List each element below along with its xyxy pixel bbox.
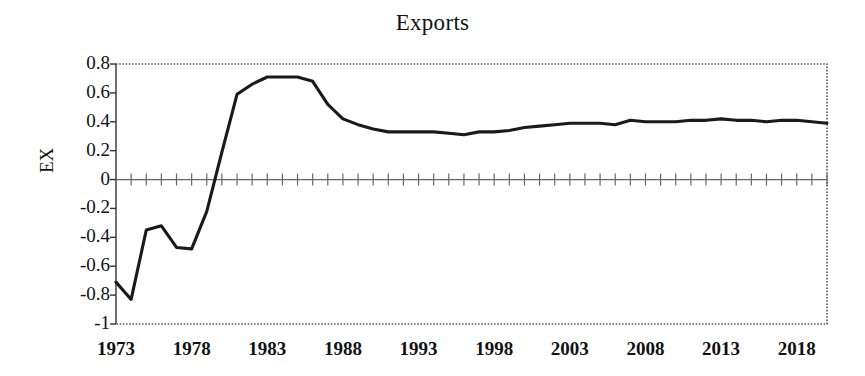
chart-canvas (0, 0, 865, 376)
chart-figure: Exports EX 0.80.60.40.20-0.2-0.4-0.6-0.8… (0, 0, 865, 376)
plot-border (116, 64, 827, 324)
data-series-ex (116, 77, 827, 299)
plot-area: EX 0.80.60.40.20-0.2-0.4-0.6-0.8-1 19731… (0, 0, 865, 376)
